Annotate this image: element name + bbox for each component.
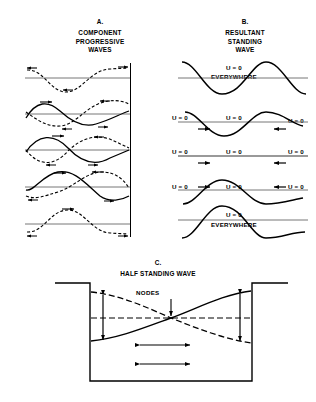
panel-a-row4-dashed-wave xyxy=(26,172,129,198)
panel-b-plot xyxy=(178,62,308,238)
panel-b-row2-wave xyxy=(185,112,303,136)
panel-a-row2-solid-wave xyxy=(26,104,129,125)
panel-a-row4-solid-wave xyxy=(26,172,129,201)
panel-a-row1-dashed-wave xyxy=(27,68,128,92)
panel-a-plot xyxy=(25,63,131,237)
panel-b-row4-wave xyxy=(183,180,303,204)
panel-c-basin-outline xyxy=(55,283,288,381)
panel-a-row5-dashed-wave xyxy=(27,210,128,234)
diagram-vector-layer xyxy=(0,0,316,402)
panel-b-row5-wave xyxy=(182,206,305,238)
panel-c-plot xyxy=(55,283,288,381)
wave-diagram-figure: A. COMPONENT PROGRESSIVE WAVES B. RESULT… xyxy=(0,0,316,402)
